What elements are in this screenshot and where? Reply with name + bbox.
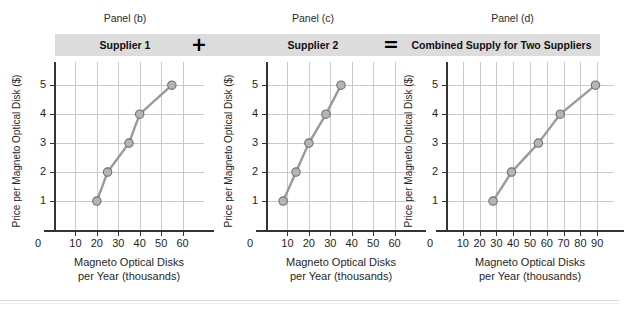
data-point-marker [591, 81, 599, 89]
bottom-divider-secondary [0, 303, 619, 304]
x-axis-title-line2: per Year (thousands) [40, 269, 218, 283]
x-axis-title-line1: Magneto Optical Disks [40, 255, 218, 269]
band-label-supplier-2: Supplier 2 [243, 34, 383, 56]
data-point-marker [489, 197, 497, 205]
data-point-marker [534, 139, 542, 147]
panel-caption-c: Panel (c) [243, 12, 383, 24]
data-point-marker [136, 110, 144, 118]
supplier-header-band: Supplier 1 + Supplier 2 = Combined Suppl… [55, 34, 600, 56]
x-axis-title: Magneto Optical Disksper Year (thousands… [40, 255, 218, 283]
data-point-marker [279, 197, 287, 205]
x-axis-title: Magneto Optical Disksper Year (thousands… [432, 255, 628, 283]
x-axis-title: Magneto Optical Disksper Year (thousands… [252, 255, 430, 283]
data-point-marker [556, 110, 564, 118]
data-point-marker [93, 197, 101, 205]
data-point-marker [168, 81, 176, 89]
data-point-marker [305, 139, 313, 147]
data-point-marker [292, 168, 300, 176]
bottom-divider [0, 300, 619, 301]
data-point-marker [507, 168, 515, 176]
data-point-marker [103, 168, 111, 176]
data-series-panel-b [8, 62, 234, 242]
supply-curve-line [493, 85, 595, 201]
x-axis-title-line1: Magneto Optical Disks [252, 255, 430, 269]
data-point-marker [322, 110, 330, 118]
band-label-supplier-1: Supplier 1 [55, 34, 195, 56]
plus-operator-icon: + [185, 34, 213, 56]
data-series-panel-d [400, 62, 628, 242]
equals-operator-icon: = [377, 34, 405, 56]
panel-caption-row: Panel (b) Panel (c) Panel (d) [0, 12, 619, 28]
data-point-marker [125, 139, 133, 147]
panel-caption-b: Panel (b) [55, 12, 195, 24]
supply-curve-line [97, 85, 172, 201]
panel-caption-d: Panel (d) [425, 12, 600, 24]
band-label-combined-supply: Combined Supply for Two Suppliers [403, 34, 600, 56]
x-axis-title-line2: per Year (thousands) [252, 269, 430, 283]
data-point-marker [337, 81, 345, 89]
x-axis-title-line1: Magneto Optical Disks [432, 255, 628, 269]
x-axis-title-line2: per Year (thousands) [432, 269, 628, 283]
